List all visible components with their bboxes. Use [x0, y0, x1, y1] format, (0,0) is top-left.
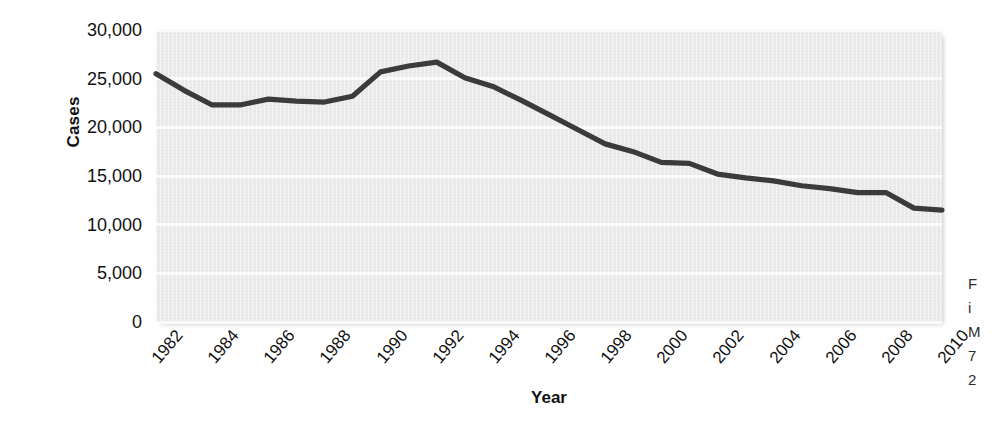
caption-line-2: i	[968, 296, 996, 320]
data-line-path	[156, 62, 942, 210]
x-tick-label: 1998	[597, 326, 637, 368]
x-tick-label: 2006	[821, 326, 861, 368]
caption-line-4: 7	[968, 344, 996, 368]
x-tick-label: 1996	[541, 326, 581, 368]
y-tick-label: 20,000	[87, 117, 142, 138]
x-axis-title: Year	[156, 388, 942, 408]
data-series-cases	[156, 30, 942, 322]
y-tick-label: 25,000	[87, 68, 142, 89]
x-tick-label: 1988	[316, 326, 356, 368]
caption-text-fragment: F i M 7 2	[968, 272, 996, 392]
x-tick-label: 2008	[878, 326, 918, 368]
caption-line-5: 2	[968, 368, 996, 392]
x-tick-label: 1986	[260, 326, 300, 368]
y-tick-label: 0	[132, 312, 142, 333]
x-tick-label: 1984	[204, 326, 244, 368]
plot-area	[156, 30, 942, 322]
x-tick-label: 2002	[709, 326, 749, 368]
line-chart-figure: Cases 30,00025,00020,00015,00010,0005,00…	[0, 0, 996, 438]
y-tick-label: 15,000	[87, 166, 142, 187]
caption-line-3: M	[968, 320, 996, 344]
y-axis-tick-labels: 30,00025,00020,00015,00010,0005,0000	[22, 30, 150, 322]
y-tick-label: 10,000	[87, 214, 142, 235]
x-tick-label: 2004	[765, 326, 805, 368]
x-tick-label: 1982	[148, 326, 188, 368]
x-tick-label: 1992	[428, 326, 468, 368]
y-tick-label: 5,000	[97, 263, 142, 284]
caption-line-1: F	[968, 272, 996, 296]
x-tick-label: 1990	[372, 326, 412, 368]
x-tick-label: 1994	[485, 326, 525, 368]
x-tick-label: 2000	[653, 326, 693, 368]
y-tick-label: 30,000	[87, 20, 142, 41]
